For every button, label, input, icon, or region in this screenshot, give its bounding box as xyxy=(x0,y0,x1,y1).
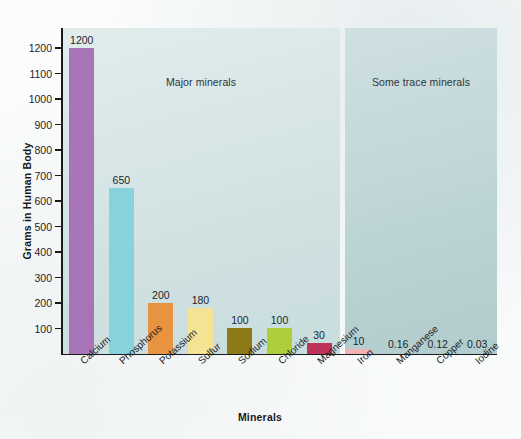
y-axis-tick xyxy=(55,124,62,125)
panel-label-trace-minerals: Some trace minerals xyxy=(345,76,497,88)
y-axis-tick xyxy=(55,200,62,201)
bar-value-label: 200 xyxy=(152,289,170,301)
bar-value-label: 1200 xyxy=(70,34,93,46)
bar-value-label: 650 xyxy=(113,174,131,186)
y-axis-tick xyxy=(55,175,62,176)
y-axis-tick xyxy=(55,149,62,150)
panel-trace-minerals: Some trace minerals xyxy=(345,28,497,354)
plot-area: Major minerals Some trace minerals 12006… xyxy=(62,28,497,354)
bar-value-label: 30 xyxy=(313,329,325,341)
panel-label-major-minerals: Major minerals xyxy=(62,76,340,88)
y-axis-tick-label: 1200 xyxy=(18,42,52,54)
y-axis-tick xyxy=(55,277,62,278)
y-axis-tick-label: 1000 xyxy=(18,93,52,105)
y-axis-tick xyxy=(55,47,62,48)
y-axis-line xyxy=(61,28,63,355)
y-axis-tick-label: 1100 xyxy=(18,68,52,80)
bar-value-label: 180 xyxy=(192,294,210,306)
bar-calcium: 1200 xyxy=(69,48,94,354)
y-axis-tick-label: 100 xyxy=(18,323,52,335)
y-axis-tick xyxy=(55,251,62,252)
bar-value-label: 100 xyxy=(271,314,289,326)
mineral-bar-chart-figure: Major minerals Some trace minerals 12006… xyxy=(0,0,521,439)
y-axis-tick xyxy=(55,226,62,227)
y-axis-tick xyxy=(55,302,62,303)
x-axis-title: Minerals xyxy=(180,411,340,423)
y-axis-tick xyxy=(55,328,62,329)
y-axis-tick-label: 200 xyxy=(18,297,52,309)
y-axis-tick xyxy=(55,73,62,74)
y-axis-title: Grams in Human Body xyxy=(21,111,33,291)
bar-value-label: 100 xyxy=(231,314,249,326)
bar-phosphorus: 650 xyxy=(109,188,134,354)
y-axis-tick xyxy=(55,98,62,99)
